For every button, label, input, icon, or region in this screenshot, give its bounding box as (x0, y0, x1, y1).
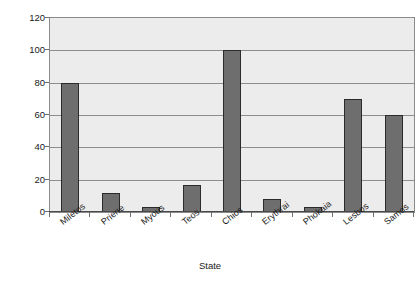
x-axis-tick-mark (49, 212, 50, 217)
y-axis-tick-mark (45, 211, 49, 212)
y-axis-tick-label: 40 (14, 141, 45, 152)
y-axis-tick-label: 100 (14, 44, 45, 55)
y-axis-tick-labels: 020406080100120 (14, 0, 45, 282)
plot-area (49, 17, 415, 213)
bar (61, 83, 79, 212)
bar (223, 50, 241, 212)
y-axis-tick-label: 120 (14, 12, 45, 23)
x-axis-tick-mark (251, 212, 252, 217)
y-axis-tick-mark (45, 179, 49, 180)
x-axis-tick-mark (332, 212, 333, 217)
x-axis-tick-mark (413, 212, 414, 217)
x-axis-title: State (0, 260, 420, 271)
y-axis-tick-mark (45, 17, 49, 18)
y-axis-tick-label: 60 (14, 109, 45, 120)
y-axis-tick-mark (45, 114, 49, 115)
x-axis-tick-mark (211, 212, 212, 217)
y-axis-tick-label: 0 (14, 206, 45, 217)
bar (385, 115, 403, 212)
bar (183, 185, 201, 212)
bars-layer (50, 18, 414, 212)
y-axis-tick-mark (45, 82, 49, 83)
x-axis-tick-mark (292, 212, 293, 217)
x-axis-tick-mark (373, 212, 374, 217)
y-axis-tick-mark (45, 49, 49, 50)
y-axis-tick-label: 80 (14, 76, 45, 87)
x-axis-tick-mark (130, 212, 131, 217)
y-axis-tick-mark (45, 146, 49, 147)
bar-chart-figure: Number of ships 020406080100120 MiletosP… (0, 0, 420, 282)
x-axis-tick-mark (89, 212, 90, 217)
bar (344, 99, 362, 212)
x-axis-tick-mark (170, 212, 171, 217)
y-axis-tick-label: 20 (14, 173, 45, 184)
